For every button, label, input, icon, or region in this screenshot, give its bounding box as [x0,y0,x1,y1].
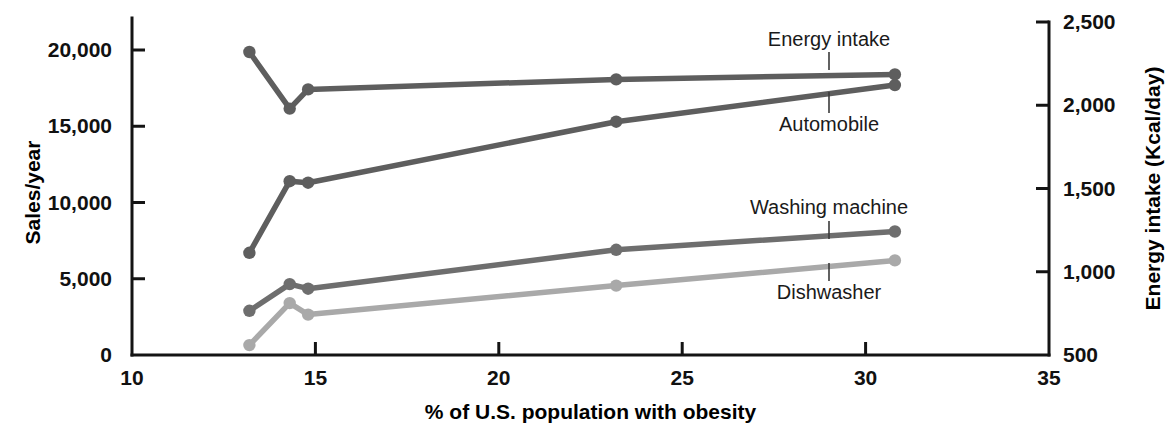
data-point-marker [889,225,901,237]
data-point-marker [889,254,901,266]
series-label: Energy intake [768,28,890,50]
data-point-marker [284,102,296,114]
x-axis-title: % of U.S. population with obesity [425,400,757,423]
x-axis-tick-label: 15 [304,366,328,389]
data-point-marker [302,308,314,320]
y2-axis-title: Energy intake (Kcal/day) [1141,67,1164,311]
series-label: Automobile [779,113,879,135]
data-point-marker [610,73,622,85]
data-point-marker [243,339,255,351]
data-point-marker [889,68,901,80]
line-chart: Energy intakeAutomobileWashing machineDi… [0,0,1174,445]
x-axis-tick-label: 25 [671,366,695,389]
data-point-marker [243,305,255,317]
y-axis-tick-label: 5,000 [59,267,112,290]
series-line [249,85,895,253]
series-label: Washing machine [750,196,908,218]
y2-axis-tick-label: 2,000 [1063,93,1116,116]
y-axis-tick-label: 10,000 [48,191,112,214]
y-axis-tick-label: 20,000 [48,38,112,61]
x-axis-tick-label: 30 [854,366,877,389]
y2-axis-tick-label: 1,500 [1063,177,1116,200]
data-point-marker [302,177,314,189]
data-point-marker [243,247,255,259]
data-point-marker [610,279,622,291]
data-point-marker [302,283,314,295]
x-axis-tick-label: 20 [487,366,510,389]
y-axis-tick-label: 0 [100,343,112,366]
y2-axis-tick-label: 1,000 [1063,260,1116,283]
series-label: Dishwasher [777,281,882,303]
x-axis-tick-label: 35 [1037,366,1061,389]
data-point-marker [284,297,296,309]
y2-axis-tick-label: 500 [1063,343,1098,366]
data-point-marker [610,116,622,128]
data-point-marker [284,175,296,187]
data-point-marker [889,79,901,91]
y-axis-title: Sales/year [21,141,44,245]
data-point-marker [284,278,296,290]
data-point-marker [243,46,255,58]
x-axis-tick-label: 10 [120,366,143,389]
chart-figure: Energy intakeAutomobileWashing machineDi… [0,0,1174,445]
y2-axis-tick-label: 2,500 [1063,10,1116,33]
y-axis-tick-label: 15,000 [48,114,112,137]
data-point-marker [302,83,314,95]
data-point-marker [610,244,622,256]
axis-labels: 05,00010,00015,00020,0005001,0001,5002,0… [21,10,1164,423]
axes [132,18,1049,355]
